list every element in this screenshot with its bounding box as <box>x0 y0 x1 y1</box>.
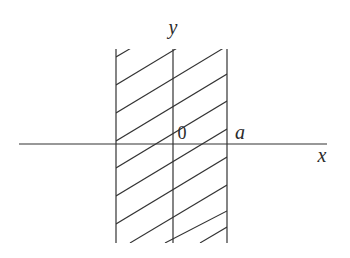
y-axis-label: y <box>167 16 178 39</box>
a-label: a <box>235 121 245 143</box>
x-axis-label: x <box>317 144 327 166</box>
strip-diagram: y x 0 a <box>0 0 350 258</box>
origin-label: 0 <box>178 123 187 143</box>
